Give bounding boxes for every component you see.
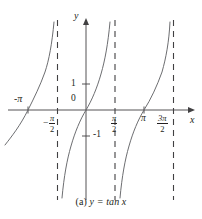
y-tick-label-0: 0 [71, 94, 76, 104]
denominator: 2 [157, 124, 168, 133]
minus-sign-neg-half-pi: − [43, 119, 48, 129]
y-tick-label-1: 1 [71, 79, 76, 89]
x-tick-label-neg-pi: -π [14, 94, 22, 104]
numerator: 3π [157, 114, 168, 124]
caption-expression: y = tan x [90, 196, 127, 207]
numerator: π [111, 114, 117, 124]
tangent-function-figure: y x 1 0 -1 -π − π 2 π 2 π 3π 2 (a) y = t… [0, 0, 202, 219]
caption-prefix: (a) [76, 196, 87, 207]
numerator: π [49, 114, 55, 124]
x-tick-label-pi: π [141, 114, 146, 124]
denominator: 2 [111, 124, 117, 133]
y-tick-label-neg-1: -1 [93, 130, 101, 140]
x-tick-label-neg-half-pi: − π 2 [49, 114, 55, 133]
x-axis-label: x [190, 115, 194, 125]
figure-caption: (a) y = tan x [0, 196, 202, 207]
x-tick-label-half-pi: π 2 [111, 114, 117, 133]
y-axis-label: y [74, 11, 78, 21]
x-tick-label-three-half-pi: 3π 2 [157, 114, 168, 133]
plot-canvas [0, 0, 202, 219]
y-axis [83, 18, 89, 200]
denominator: 2 [49, 124, 55, 133]
